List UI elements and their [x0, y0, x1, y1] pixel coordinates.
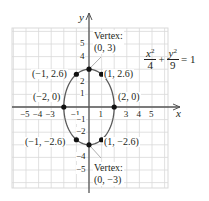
- vertex-top-annotation: Vertex: (0, 3): [93, 30, 124, 54]
- vertex-bottom-title: Vertex:: [94, 162, 123, 174]
- point-label: (2, 0): [117, 92, 141, 102]
- y-tick-label: −1: [76, 115, 86, 124]
- point-marker: [61, 104, 66, 109]
- point-label: (1, 2.6): [103, 69, 134, 79]
- y-exponent: 2: [174, 47, 178, 55]
- y-tick-label: 5: [80, 39, 85, 48]
- point-label: (1, −2.6): [103, 137, 140, 147]
- vertex-top-title: Vertex:: [94, 30, 123, 42]
- point-marker: [74, 137, 79, 142]
- x-exponent: 2: [151, 47, 155, 55]
- point-label: (−2, 0): [32, 92, 61, 102]
- y-tick-label: −2: [76, 127, 86, 136]
- y-denominator: 9: [170, 60, 176, 71]
- point-marker: [86, 67, 91, 72]
- vertex-bottom-coords: (0, −3): [94, 174, 123, 186]
- plus-sign: +: [158, 53, 164, 65]
- point-label: (−1, 2.6): [31, 69, 68, 79]
- y-term: y2 9: [167, 46, 179, 71]
- point-marker: [112, 104, 117, 109]
- equals-one: = 1: [181, 53, 195, 65]
- y-tick-label: −4: [76, 152, 86, 161]
- y-tick-label: 1: [80, 89, 85, 98]
- ellipse-equation: x2 4 + y2 9 = 1: [142, 46, 195, 71]
- x-tick-label: 1: [99, 110, 104, 119]
- x-tick-label: −4: [33, 110, 43, 119]
- point-marker: [74, 72, 79, 77]
- y-tick-label: 4: [80, 52, 85, 61]
- x-term: x2 4: [144, 46, 156, 71]
- x-tick-label: −3: [45, 110, 55, 119]
- x-tick-label: 5: [149, 110, 154, 119]
- x-tick-label: 3: [124, 110, 129, 119]
- point-label: (−1, −2.6): [24, 137, 66, 147]
- point-marker: [86, 142, 91, 147]
- x-axis-label: x: [176, 108, 181, 119]
- vertex-top-coords: (0, 3): [94, 42, 123, 54]
- x-tick-label: 4: [136, 110, 141, 119]
- y-tick-label: 2: [80, 77, 85, 86]
- vertex-bottom-annotation: Vertex: (0, −3): [93, 162, 124, 186]
- y-tick-label: −5: [76, 165, 86, 174]
- x-denominator: 4: [147, 60, 153, 71]
- y-axis-label: y: [79, 12, 84, 23]
- x-tick-label: −5: [20, 110, 30, 119]
